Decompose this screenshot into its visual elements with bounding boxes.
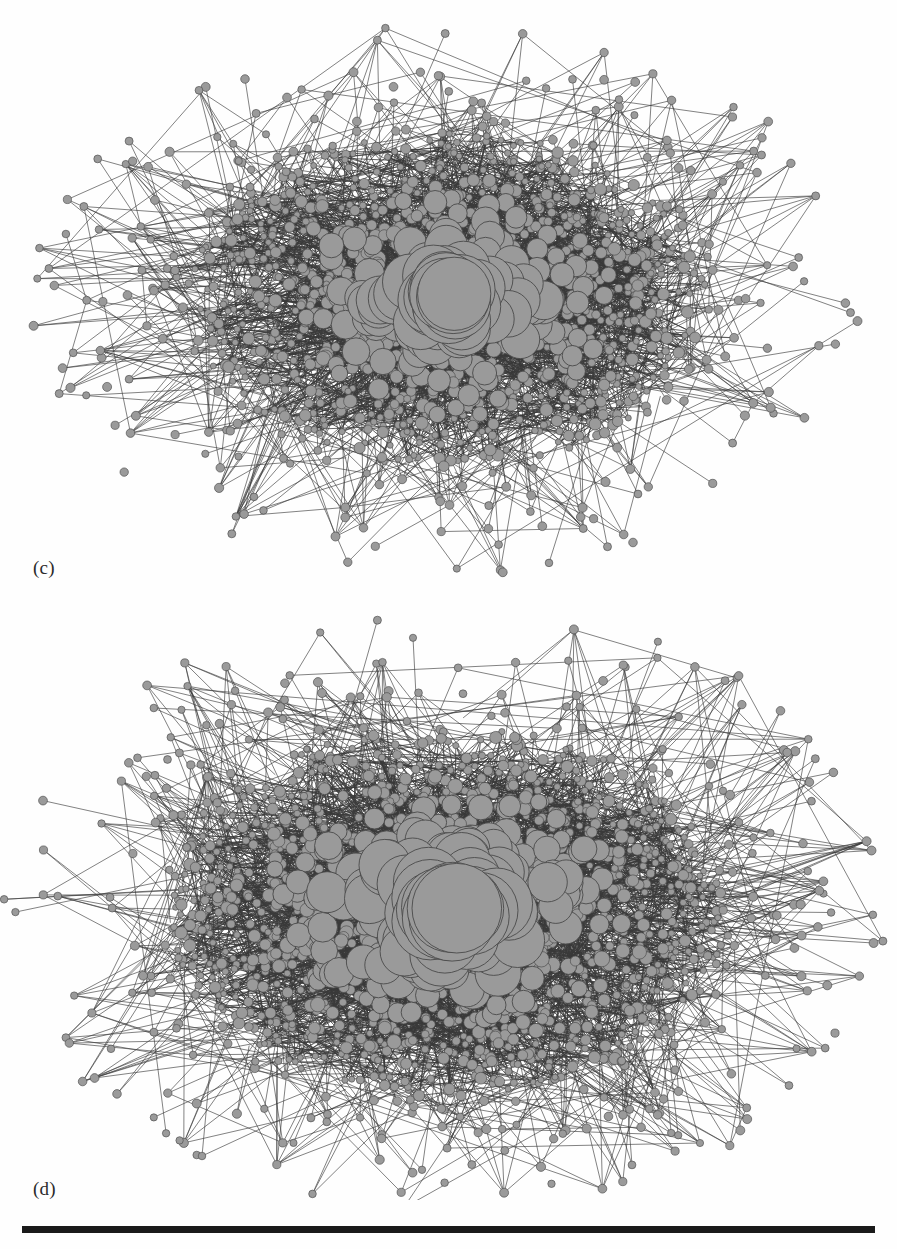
graph-node xyxy=(696,945,705,954)
graph-node xyxy=(527,508,535,516)
graph-node xyxy=(377,426,388,437)
graph-node xyxy=(235,157,242,164)
graph-node xyxy=(407,176,418,187)
graph-node xyxy=(681,306,693,318)
graph-node xyxy=(267,1019,273,1025)
graph-node xyxy=(247,979,259,991)
graph-node xyxy=(286,188,296,198)
graph-node xyxy=(471,753,477,759)
graph-node xyxy=(163,265,171,273)
graph-node xyxy=(234,199,245,210)
graph-node xyxy=(787,159,795,167)
graph-node xyxy=(279,411,290,422)
graph-node xyxy=(138,266,146,274)
graph-node xyxy=(207,930,213,936)
graph-node xyxy=(281,1071,289,1079)
graph-node xyxy=(637,231,646,240)
graph-node xyxy=(147,236,154,243)
graph-node xyxy=(598,994,610,1006)
graph-node xyxy=(615,830,628,843)
graph-node xyxy=(488,752,494,758)
graph-node xyxy=(350,184,357,191)
graph-node xyxy=(341,503,350,512)
graph-node xyxy=(313,678,322,687)
graph-node xyxy=(643,783,649,789)
graph-node xyxy=(511,658,519,666)
graph-node xyxy=(107,1045,115,1053)
graph-node xyxy=(283,278,296,291)
graph-node xyxy=(55,390,63,398)
graph-node xyxy=(793,1045,800,1052)
graph-node xyxy=(190,862,200,872)
graph-node xyxy=(659,745,666,752)
graph-node xyxy=(601,267,616,282)
graph-node xyxy=(715,866,723,874)
graph-node xyxy=(342,1077,348,1083)
graph-node xyxy=(203,798,212,807)
graph-node xyxy=(253,973,260,980)
graph-node xyxy=(590,915,609,934)
graph-node xyxy=(505,1086,511,1092)
graph-node xyxy=(613,443,622,452)
graph-node xyxy=(71,992,78,999)
graph-node xyxy=(300,227,307,234)
graph-node xyxy=(585,398,595,408)
graph-node xyxy=(113,1090,122,1099)
graph-node xyxy=(678,221,687,230)
graph-node xyxy=(120,468,128,476)
graph-node xyxy=(616,872,623,879)
graph-node xyxy=(593,979,607,993)
graph-node xyxy=(262,1041,268,1047)
graph-node xyxy=(429,406,445,422)
graph-node xyxy=(372,996,390,1014)
graph-node xyxy=(453,565,460,572)
graph-node xyxy=(545,1063,552,1070)
graph-node xyxy=(262,793,268,799)
graph-node xyxy=(468,795,493,820)
graph-node xyxy=(12,908,19,915)
graph-node xyxy=(665,1013,672,1020)
graph-node xyxy=(188,962,196,970)
graph-node xyxy=(616,220,624,228)
graph-node xyxy=(69,349,77,357)
graph-node xyxy=(273,1161,281,1169)
graph-node xyxy=(615,96,623,104)
graph-node xyxy=(776,707,785,716)
graph-node xyxy=(300,285,310,295)
graph-node xyxy=(275,273,283,281)
graph-node xyxy=(240,235,246,241)
graph-node xyxy=(534,787,542,795)
graph-node xyxy=(682,332,688,338)
graph-node xyxy=(743,1115,752,1124)
graph-node xyxy=(563,746,569,752)
graph-node xyxy=(484,524,493,533)
graph-node xyxy=(676,827,682,833)
network-graph-canvas-c xyxy=(0,0,897,600)
graph-node xyxy=(590,515,598,523)
graph-node xyxy=(279,715,287,723)
graph-node xyxy=(749,892,758,901)
graph-node xyxy=(411,210,423,222)
graph-node xyxy=(258,221,264,227)
graph-node xyxy=(771,935,780,944)
graph-node xyxy=(171,431,179,439)
graph-node xyxy=(616,802,623,809)
graph-node xyxy=(629,538,638,547)
graph-node xyxy=(349,68,358,77)
graph-node xyxy=(360,202,367,209)
graph-node xyxy=(249,275,262,288)
graph-node xyxy=(218,1004,224,1010)
graph-node xyxy=(715,888,725,898)
graph-node xyxy=(474,1129,482,1137)
graph-node xyxy=(412,765,420,773)
graph-node xyxy=(204,209,213,218)
graph-node xyxy=(278,431,285,438)
graph-node xyxy=(735,672,743,680)
graph-node xyxy=(347,756,358,767)
graph-node xyxy=(175,954,183,962)
graph-node xyxy=(738,700,746,708)
graph-node xyxy=(507,1053,515,1061)
graph-node xyxy=(252,819,260,827)
graph-node xyxy=(221,264,227,270)
graph-node xyxy=(393,750,402,759)
